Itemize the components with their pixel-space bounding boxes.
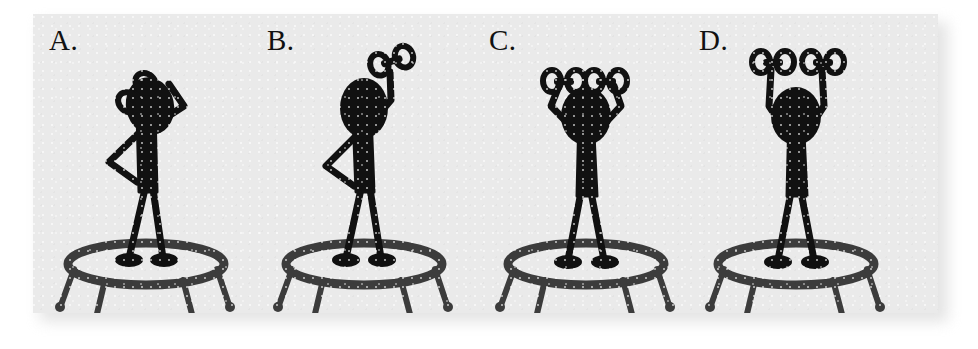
dumbbell-c-right — [585, 70, 627, 92]
dumbbell-c-left — [543, 70, 585, 92]
panel-item-b: B. — [251, 14, 477, 313]
trampoline-a — [55, 243, 235, 313]
trampoline-b — [273, 243, 453, 313]
panel-item-c: C. — [473, 14, 699, 313]
figure-root: A. — [0, 0, 978, 349]
illustration-panel: A. — [33, 14, 938, 313]
stick-figure-a-artwork — [33, 14, 259, 313]
panel-item-a: A. — [33, 14, 259, 313]
panel-label-b: B. — [267, 26, 295, 55]
stick-figure-b-artwork — [251, 14, 477, 313]
stick-figure-c-artwork — [473, 14, 699, 313]
trampoline-d — [705, 243, 885, 313]
panel-label-c: C. — [489, 26, 517, 55]
panel-label-a: A. — [49, 26, 78, 55]
trampoline-c — [495, 243, 675, 313]
panel-item-d: D. — [683, 14, 909, 313]
stick-figure-d-artwork — [683, 14, 909, 313]
panel-label-d: D. — [699, 26, 728, 55]
